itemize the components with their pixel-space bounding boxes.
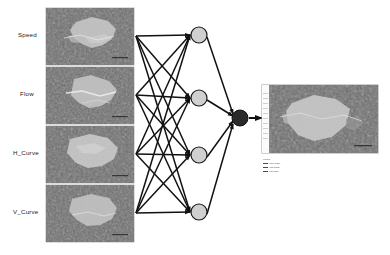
hidden-node-1 — [191, 27, 207, 43]
legend-swatch-icon — [263, 167, 268, 169]
map-caption-title: Legend — [263, 158, 270, 161]
network-diagram-figure: Speed Flow H_Curve V_Curve — [0, 0, 390, 255]
map-caption-row-2: Low Rural — [263, 170, 278, 173]
legend-swatch-icon — [263, 171, 268, 173]
hidden-node-3 — [191, 147, 207, 163]
hidden-layer-nodes — [191, 27, 207, 220]
hidden-node-4 — [191, 204, 207, 220]
output-node — [232, 110, 248, 126]
edges-input-to-hidden — [136, 35, 190, 213]
legend-swatch-icon — [263, 163, 268, 165]
hidden-node-2 — [191, 90, 207, 106]
legend-ticks — [263, 89, 268, 149]
satellite-raster-icon — [262, 85, 378, 153]
output-raster-map — [262, 85, 378, 153]
map-caption-header: Value Class — [263, 162, 280, 165]
map-legend-strip — [262, 85, 270, 153]
edges-hidden-to-output — [207, 37, 233, 214]
map-caption-row-1: High Urban — [263, 166, 280, 169]
